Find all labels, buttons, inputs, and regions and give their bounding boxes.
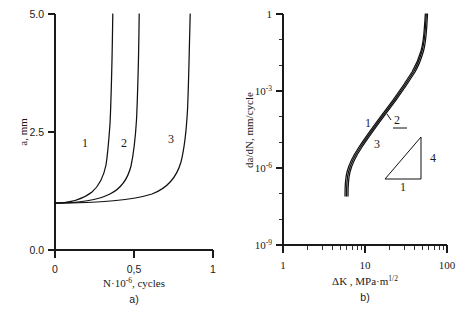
panel-b-xtick-label-1: 1 (280, 259, 286, 271)
panel-a-y-axis-label: a, mm (17, 118, 29, 146)
panel-a-curve-1 (55, 14, 113, 203)
panel-b-x-axis-label: ΔK , MPa·m1/2 (332, 274, 398, 287)
panel-b-ytick-label-1e-6-exponent: -6 (266, 161, 272, 170)
panel-a-curve-label-2: 2 (121, 136, 127, 150)
panel-b-curve-label-3: 3 (374, 137, 380, 151)
panel-b-ytick-label-1e-9-exponent: -9 (266, 238, 272, 247)
panel-b-slope-triangle-height-label: 4 (430, 151, 436, 165)
panel-a-xtick-label-0: 0 (52, 263, 58, 275)
panel-a-x-axis-label-tail: , cycles (132, 277, 165, 289)
panel-b-ytick-label-1: 1 (267, 8, 273, 20)
panel-b-ytick-label-1e-6: 10-6 (255, 161, 272, 174)
panel-b-curve-1 (345, 14, 425, 196)
panel-b-curve-2 (347, 14, 427, 196)
panel-b-svg: 1 10-3 10-6 10-9 1 10 100 da/dN, mm/cycl… (235, 0, 471, 318)
figure-container: 5.0 2.5 0.0 0 0,5 1 a, mm N·10-6, cycles… (0, 0, 471, 318)
panel-b-ytick-label-1e-3-exponent: -3 (266, 84, 272, 93)
panel-b-ytick-label-1e-9: 10-9 (255, 238, 272, 251)
panel-b-y-minor-ticks (279, 40, 283, 220)
panel-b-curve-label-1: 1 (365, 116, 371, 130)
panel-a-curve-2 (55, 14, 139, 203)
panel-b-curve-3 (348, 14, 428, 196)
panel-a-xtick-label-0.5: 0,5 (127, 263, 142, 275)
panel-a-x-axis-label-main: N·10 (103, 277, 126, 289)
panel-b-ytick-label-1-mantissa: 1 (267, 8, 273, 20)
panel-a-caption: a) (129, 293, 138, 305)
panel-a-curve-3 (55, 14, 190, 203)
panel-b-ytick-label-1e-3: 10-3 (255, 84, 272, 97)
panel-a-x-axis-label: N·10-6, cycles (103, 276, 165, 289)
panel-a-curve-label-3: 3 (168, 132, 174, 146)
panel-b-x-axis-label-exponent: 1/2 (388, 274, 398, 283)
panel-b-x-minor-ticks (308, 245, 444, 250)
panel-a-svg: 5.0 2.5 0.0 0 0,5 1 a, mm N·10-6, cycles… (0, 0, 235, 318)
panel-b-ytick-label-1e-6-mantissa: 10 (255, 162, 267, 174)
panel-b-xtick-label-10: 10 (360, 259, 372, 271)
panel-a-curve-label-1: 1 (82, 136, 88, 150)
panel-b-ytick-label-1e-9-mantissa: 10 (255, 239, 267, 251)
panel-b-xtick-label-100: 100 (439, 259, 456, 271)
panel-b: 1 10-3 10-6 10-9 1 10 100 da/dN, mm/cycl… (235, 0, 471, 318)
panel-a-ytick-label-0: 0.0 (29, 244, 44, 256)
panel-b-slope-triangle (385, 137, 421, 179)
panel-b-y-axis-label: da/dN, mm/cycle (243, 92, 255, 168)
panel-a: 5.0 2.5 0.0 0 0,5 1 a, mm N·10-6, cycles… (0, 0, 235, 318)
panel-b-curve-2-leader-upper (387, 114, 391, 120)
panel-a-ytick-label-5: 5.0 (29, 8, 44, 20)
panel-b-slope-triangle-base-label: 1 (400, 180, 406, 194)
panel-b-ytick-label-1e-3-mantissa: 10 (255, 85, 267, 97)
panel-b-curve-label-2: 2 (394, 113, 400, 127)
panel-b-x-axis-label-main: ΔK , MPa·m (332, 275, 389, 287)
panel-a-xtick-label-1: 1 (210, 263, 216, 275)
panel-b-caption: b) (360, 291, 369, 303)
panel-a-ytick-label-2.5: 2.5 (29, 126, 44, 138)
